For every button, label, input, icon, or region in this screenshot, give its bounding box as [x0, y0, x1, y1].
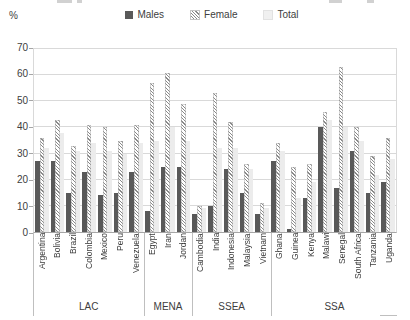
y-axis-tick-label: 0 — [2, 227, 28, 238]
country-label: Vietnam — [259, 233, 268, 297]
cropped-caption-artifact — [367, 0, 374, 3]
country-label-cell: Uganda — [381, 233, 397, 298]
males-swatch-icon — [125, 11, 133, 19]
bar-total-iran — [170, 127, 175, 232]
bar-total-argentina — [44, 148, 49, 232]
legend: Males Female Total — [14, 9, 410, 20]
bar-total-senegal — [343, 127, 348, 232]
bar-total-bolivia — [60, 133, 65, 232]
country-label-cell: Malaysia — [239, 233, 255, 298]
country-bars-colombia — [81, 49, 97, 232]
country-label: Colombia — [85, 233, 94, 297]
country-bars-indonesia — [223, 49, 239, 232]
country-label-cell: Jordan — [176, 233, 192, 298]
legend-label-total: Total — [277, 9, 298, 20]
y-axis-tick-mark — [29, 48, 33, 49]
country-bars-jordan — [176, 49, 192, 232]
country-label: Malawi — [322, 233, 331, 297]
country-label: Senegal — [338, 233, 347, 297]
country-label: Uganda — [385, 233, 394, 297]
country-bars-senegal — [333, 49, 349, 232]
country-label-cell: Kenya — [303, 233, 319, 298]
bar-total-uganda — [390, 159, 395, 232]
country-label-cell: Indonesia — [224, 233, 240, 298]
legend-item-female: Female — [190, 9, 237, 20]
country-label: Venezuela — [132, 233, 141, 297]
bar-group-mena — [144, 49, 191, 232]
x-group-lac: ArgentinaBoliviaBrazilColombiaMexicoPeru… — [34, 233, 145, 316]
country-label-cell: Peru — [112, 233, 128, 298]
country-bars-malawi — [317, 49, 333, 232]
bar-total-kenya — [312, 182, 317, 232]
region-label-mena: MENA — [145, 298, 192, 316]
x-group-mena: EgyptIranJordanMENA — [145, 233, 193, 316]
region-label-lac: LAC — [34, 298, 144, 316]
country-label-cell: South Africa — [350, 233, 366, 298]
country-label-cell: Egypt — [145, 233, 161, 298]
country-label: Indonesia — [227, 233, 236, 297]
country-label: Kenya — [307, 233, 316, 297]
bar-total-india — [217, 148, 222, 232]
bar-total-malaysia — [249, 169, 254, 232]
y-axis-tick-mark — [29, 206, 33, 207]
bar-group-ssea — [191, 49, 270, 232]
bar-total-indonesia — [233, 148, 238, 232]
y-axis-tick-label: 40 — [2, 121, 28, 132]
country-label: Bolivia — [53, 233, 62, 297]
country-label-cell: India — [208, 233, 224, 298]
country-label: Brazil — [69, 233, 78, 297]
country-label: Malaysia — [243, 233, 252, 297]
country-label: Jordan — [179, 233, 188, 297]
bar-total-venezuela — [139, 143, 144, 232]
y-axis-tick-label: 50 — [2, 95, 28, 106]
bar-total-south-africa — [359, 141, 364, 233]
y-axis-tick-label: 30 — [2, 148, 28, 159]
country-label-cell: Cambodia — [193, 233, 209, 298]
country-bars-argentina — [34, 49, 50, 232]
region-label-ssea: SSEA — [193, 298, 271, 316]
y-axis-tick-mark — [29, 74, 33, 75]
country-bars-vietnam — [254, 49, 270, 232]
country-bars-kenya — [302, 49, 318, 232]
country-label: Argentina — [38, 233, 47, 297]
country-label-cell: Brazil — [65, 233, 81, 298]
country-bars-india — [207, 49, 223, 232]
country-label-cell: Iran — [160, 233, 176, 298]
cropped-caption-artifact — [329, 0, 342, 3]
x-group-ssa: GhanaGuineaKenyaMalawiSenegalSouth Afric… — [272, 233, 397, 316]
country-bars-egypt — [144, 49, 160, 232]
bar-total-guinea — [296, 198, 301, 232]
country-label-cell: Tanzania — [366, 233, 382, 298]
y-axis-tick-mark — [29, 180, 33, 181]
bar-total-jordan — [186, 141, 191, 233]
bar-chart-figure: Males Female Total % ArgentinaBoliviaBra… — [0, 0, 410, 320]
y-axis-tick-label: 10 — [2, 201, 28, 212]
country-bars-ghana — [270, 49, 286, 232]
country-label-cell: Venezuela — [128, 233, 144, 298]
bar-total-tanzania — [375, 175, 380, 233]
country-label: India — [212, 233, 221, 297]
legend-label-males: Males — [137, 9, 164, 20]
country-label-cell: Senegal — [334, 233, 350, 298]
country-bars-venezuela — [128, 49, 144, 232]
country-label-cell: Colombia — [81, 233, 97, 298]
country-label: Egypt — [148, 233, 157, 297]
y-axis-tick-label: 70 — [2, 42, 28, 53]
country-label-cell: Malawi — [319, 233, 335, 298]
legend-item-males: Males — [125, 9, 164, 20]
country-bars-uganda — [380, 49, 396, 232]
country-label: Cambodia — [196, 233, 205, 297]
country-label-cell: Argentina — [34, 233, 50, 298]
x-axis-label-area: ArgentinaBoliviaBrazilColombiaMexicoPeru… — [33, 233, 397, 316]
country-bars-cambodia — [191, 49, 207, 232]
bar-group-lac — [34, 49, 144, 232]
country-bars-bolivia — [50, 49, 66, 232]
y-axis-unit-label: % — [9, 10, 18, 21]
bar-total-mexico — [107, 151, 112, 232]
country-label-cell: Guinea — [287, 233, 303, 298]
plot-area — [33, 48, 397, 233]
country-bars-peru — [113, 49, 129, 232]
country-bars-guinea — [286, 49, 302, 232]
bar-total-egypt — [154, 141, 159, 233]
legend-label-female: Female — [204, 9, 237, 20]
